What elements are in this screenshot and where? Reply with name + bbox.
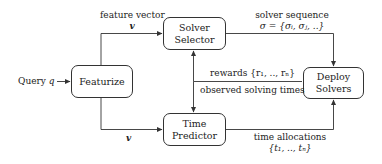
rewards-label: rewards {r₁, .., rₙ} xyxy=(210,68,295,79)
solver-selector-label-1: Solver xyxy=(179,22,210,34)
deploy-solvers-label-1: Deploy xyxy=(317,71,350,83)
feature-vector-text: feature vector xyxy=(100,10,164,21)
feature-vector-arrow-bottom xyxy=(101,98,162,130)
feature-vector-label: feature vector v xyxy=(100,10,164,32)
time-predictor-label-2: Predictor xyxy=(172,130,217,142)
solver-sequence-arrow xyxy=(226,34,334,67)
deploy-solvers-label-2: Solvers xyxy=(316,83,352,95)
solver-sequence-text: solver sequence xyxy=(252,10,332,21)
time-allocations-text: time allocations xyxy=(250,132,330,143)
query-text: Query xyxy=(18,76,46,86)
query-symbol: q xyxy=(49,76,55,86)
time-allocations-arrow xyxy=(226,100,334,130)
time-predictor-label-1: Time xyxy=(182,118,206,130)
time-allocations-label: time allocations {t₁, .., tₙ} xyxy=(250,132,330,154)
time-allocations-formula: {t₁, .., tₙ} xyxy=(250,143,330,154)
feature-vector-symbol-top: v xyxy=(100,21,164,32)
solver-selector-node[interactable]: Solver Selector xyxy=(163,17,226,50)
solver-selector-label-2: Selector xyxy=(174,34,214,46)
featurize-node[interactable]: Featurize xyxy=(71,65,133,98)
query-label: Query q xyxy=(18,76,55,87)
solver-sequence-label: solver sequence σ = {σᵢ, σⱼ, ..} xyxy=(252,10,332,32)
time-predictor-node[interactable]: Time Predictor xyxy=(163,113,226,146)
deploy-solvers-node[interactable]: Deploy Solvers xyxy=(303,67,364,99)
observed-times-label: observed solving times xyxy=(200,85,305,96)
feature-vector-arrow-top xyxy=(101,34,162,66)
feature-vector-symbol-bottom: v xyxy=(126,133,131,144)
featurize-label: Featurize xyxy=(79,76,125,88)
solver-sequence-formula: σ = {σᵢ, σⱼ, ..} xyxy=(252,21,332,32)
